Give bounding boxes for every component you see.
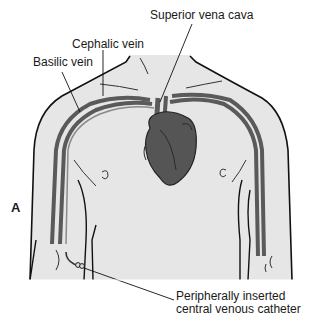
label-cephalic-vein: Cephalic vein xyxy=(72,38,144,51)
panel-letter: A xyxy=(11,200,20,215)
label-superior-vena-cava: Superior vena cava xyxy=(150,9,253,22)
label-basilic-vein: Basilic vein xyxy=(33,56,93,69)
label-picc-line2: central venous catheter xyxy=(176,303,301,316)
anatomy-figure: Superior vena cava Cephalic vein Basilic… xyxy=(0,0,318,323)
torso-illustration xyxy=(0,0,318,323)
